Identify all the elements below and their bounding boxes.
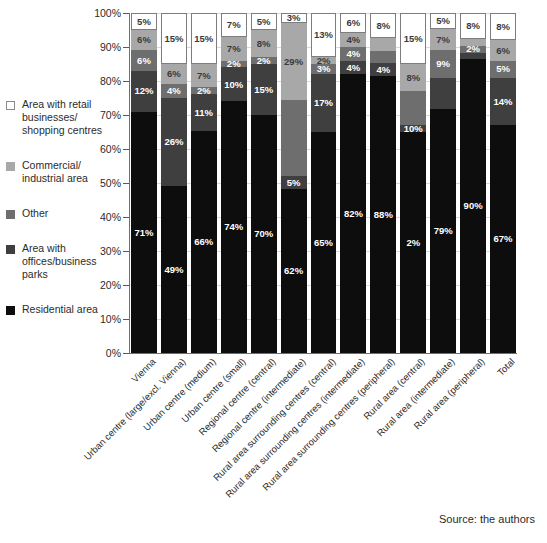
- bar-segment-offices: 4%: [340, 61, 366, 75]
- bar-segment-value: 9%: [436, 59, 450, 69]
- bar-segment-value: 3%: [317, 64, 331, 74]
- stacked-bar[interactable]: 13%2%3%17%65%: [311, 13, 337, 353]
- bar-segment-value: 5%: [287, 178, 301, 188]
- bar-segment-value: 12%: [134, 86, 153, 96]
- bar-segment-commercial: [370, 38, 396, 51]
- stacked-bar[interactable]: 7%7%2%10%74%: [221, 13, 247, 353]
- bar-segment-retail: 6%: [340, 13, 366, 33]
- bar-segment-value: 66%: [194, 237, 213, 247]
- plot-area: 5%6%6%12%71%15%6%4%26%49%15%7%2%11%66%7%…: [131, 13, 516, 353]
- bar-segment-residential: 49%: [161, 186, 187, 353]
- bar-segment-retail: 5%: [131, 13, 157, 30]
- legend-label-commercial: Commercial/industrial area: [22, 159, 88, 185]
- y-tick-label: 30%: [100, 245, 121, 257]
- bar-segment-other: 4%: [340, 47, 366, 61]
- bar-segment-value: 5%: [496, 64, 510, 74]
- bar-segment-retail: 8%: [490, 13, 516, 40]
- bar-segment-value: 26%: [164, 137, 183, 147]
- bar-segment-offices: 5%: [281, 176, 307, 189]
- bar-segment-residential: 62%: [281, 189, 307, 353]
- bar-segment-retail: 15%: [400, 13, 426, 64]
- y-tick-label: 50%: [100, 177, 121, 189]
- stacked-bar[interactable]: 8%4%88%: [370, 13, 396, 353]
- bar-segment-residential: 2%: [400, 132, 426, 353]
- bar-segment-commercial: 6%: [490, 40, 516, 60]
- y-tick-label: 40%: [100, 211, 121, 223]
- bar-segment-offices: 14%: [490, 78, 516, 126]
- bar-segment-value: 67%: [494, 234, 513, 244]
- bar-segment-residential: 79%: [430, 109, 456, 353]
- y-axis: 100%90%80%70%60%50%40%30%20%10%0%: [95, 13, 129, 353]
- bar-segment-other: 2%: [221, 61, 247, 68]
- bar-segment-commercial: 6%: [131, 30, 157, 50]
- bar-segment-retail: 8%: [460, 13, 486, 39]
- bar-segment-value: 5%: [436, 16, 450, 26]
- stacked-bar[interactable]: 8%6%5%14%67%: [490, 13, 516, 353]
- bar-segment-other: [281, 100, 307, 177]
- bar-segment-value: 6%: [137, 35, 151, 45]
- bar-segment-value: 6%: [496, 46, 510, 56]
- bar-segment-value: 70%: [254, 229, 273, 239]
- bar-segment-value: 8%: [406, 73, 420, 83]
- source-note: Source: the authors: [439, 513, 535, 525]
- bar-segment-residential: 65%: [311, 132, 337, 353]
- stacked-bar[interactable]: 3%29%5%62%: [281, 13, 307, 353]
- bar-segment-retail: 5%: [251, 13, 277, 30]
- bar-segment-value: 82%: [344, 209, 363, 219]
- bar-segment-value: 7%: [227, 20, 241, 30]
- bar-segment-value: 65%: [314, 238, 333, 248]
- legend-label-offices: Area withoffices/businessparks: [22, 242, 97, 281]
- stacked-bar[interactable]: 5%6%6%12%71%: [131, 13, 157, 353]
- stacked-bar[interactable]: 5%7%9%79%: [430, 13, 456, 353]
- stacked-bar[interactable]: 5%8%2%15%70%: [251, 13, 277, 353]
- bar-segment-residential: 71%: [131, 112, 157, 353]
- bar-segment-commercial: 7%: [430, 29, 456, 51]
- bar-segment-value: 5%: [257, 17, 271, 27]
- bar-segment-value: 49%: [164, 265, 183, 275]
- y-tick-label: 70%: [100, 109, 121, 121]
- bar-segment-value: 15%: [164, 34, 183, 44]
- bar-segment-value: 4%: [347, 35, 361, 45]
- bar-segment-value: 90%: [464, 201, 483, 211]
- legend-swatch-retail: [6, 101, 15, 110]
- bar-group: 5%6%6%12%71%15%6%4%26%49%15%7%2%11%66%7%…: [131, 13, 516, 353]
- bar-segment-residential: 66%: [191, 131, 217, 353]
- stacked-bar[interactable]: 15%6%4%26%49%: [161, 13, 187, 353]
- bar-segment-commercial: 4%: [340, 33, 366, 47]
- bar-segment-value: 2%: [406, 238, 420, 248]
- legend-label-other: Other: [22, 207, 48, 220]
- bar-segment-retail: 15%: [161, 13, 187, 64]
- bar-segment-residential: 67%: [490, 125, 516, 353]
- y-tick-label: 0%: [106, 347, 121, 359]
- legend-swatch-other: [6, 210, 15, 219]
- bar-segment-retail: 7%: [221, 13, 247, 37]
- bar-segment-retail: 15%: [191, 13, 217, 64]
- stacked-bar[interactable]: 8%2%90%: [460, 13, 486, 353]
- bar-segment-offices: 26%: [161, 98, 187, 186]
- bar-segment-value: 74%: [224, 222, 243, 232]
- bar-segment-value: 5%: [137, 17, 151, 27]
- stacked-bar[interactable]: 15%7%2%11%66%: [191, 13, 217, 353]
- bar-segment-other: 2%: [460, 46, 486, 53]
- x-axis-label: Rural area surrounding centres (intermed…: [224, 356, 368, 500]
- bar-segment-retail: 3%: [281, 13, 307, 23]
- bar-segment-residential: 70%: [251, 115, 277, 353]
- bar-segment-value: 15%: [194, 34, 213, 44]
- bar-segment-value: 71%: [134, 228, 153, 238]
- bar-segment-commercial: 7%: [221, 37, 247, 61]
- bar-segment-value: 3%: [287, 13, 301, 23]
- bar-segment-value: 8%: [257, 39, 271, 49]
- bar-segment-retail: 13%: [311, 13, 337, 57]
- bar-segment-retail: 5%: [430, 13, 456, 29]
- bar-segment-value: 8%: [376, 21, 390, 31]
- bar-segment-other: 4%: [161, 84, 187, 98]
- stacked-bar[interactable]: 15%8%10%2%: [400, 13, 426, 353]
- x-axis-line: [129, 353, 517, 354]
- bar-segment-offices: 12%: [131, 71, 157, 112]
- stacked-bar[interactable]: 6%4%4%4%82%: [340, 13, 366, 353]
- bar-segment-commercial: 29%: [281, 23, 307, 100]
- bar-segment-offices: 17%: [311, 74, 337, 132]
- x-axis-label: Vienna: [129, 356, 158, 385]
- bar-segment-value: 15%: [404, 34, 423, 44]
- bar-segment-other: [370, 51, 396, 64]
